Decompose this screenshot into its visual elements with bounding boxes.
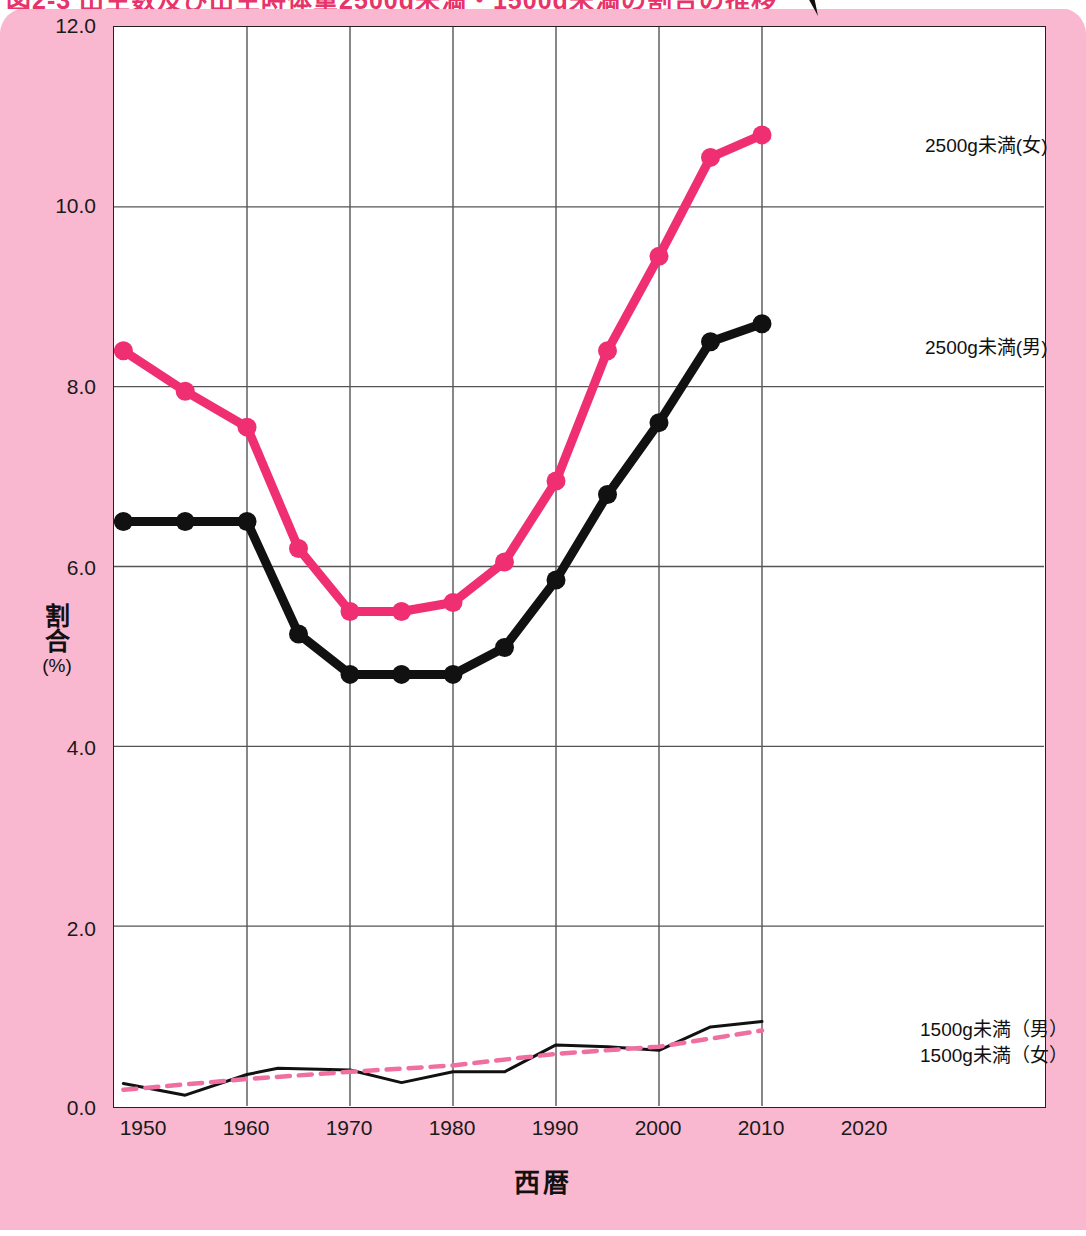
series-2 [123, 1022, 762, 1096]
y-tick-6: 6.0 [34, 556, 96, 580]
y-axis-title-text: 割合 [45, 602, 70, 655]
x-tick-2020: 2020 [824, 1116, 904, 1140]
x-tick-1950: 1950 [103, 1116, 183, 1140]
x-axis-title: 西暦 [0, 1162, 1086, 1199]
y-tick-2: 2.0 [34, 917, 96, 941]
y-axis-title: 割合 (%) [34, 604, 80, 675]
x-tick-2010: 2010 [721, 1116, 801, 1140]
plot-area [113, 26, 1046, 1108]
chart-page: 図2-3 出生数及び出生時体重2500g未満・1500g未満の割合の推移 割合 … [0, 0, 1086, 1236]
y-tick-8: 8.0 [34, 375, 96, 399]
series-0 [114, 125, 771, 621]
series-3 [123, 1031, 762, 1090]
bubble-tail [766, 0, 818, 16]
speech-bubble [722, 0, 1086, 100]
legend-female-2500: 2500g未満(女) [925, 130, 1048, 157]
y-tick-4: 4.0 [34, 736, 96, 760]
y-axis-unit: (%) [34, 656, 80, 675]
series-1 [114, 314, 771, 684]
y-tick-0: 0.0 [34, 1096, 96, 1120]
x-tick-1980: 1980 [412, 1116, 492, 1140]
y-tick-12: 12.0 [34, 14, 96, 38]
chart-svg [114, 27, 1044, 1106]
legend-male-2500: 2500g未満(男) [925, 332, 1048, 359]
x-tick-1970: 1970 [309, 1116, 389, 1140]
x-tick-2000: 2000 [618, 1116, 698, 1140]
legend-female-1500: 1500g未満（女） [920, 1040, 1068, 1067]
gridlines [114, 27, 1044, 1106]
legend-male-1500: 1500g未満（男） [920, 1014, 1068, 1041]
x-tick-1960: 1960 [206, 1116, 286, 1140]
y-tick-10: 10.0 [34, 194, 96, 218]
figure-title: 図2-3 出生数及び出生時体重2500g未満・1500g未満の割合の推移 [6, 0, 777, 9]
x-tick-1990: 1990 [515, 1116, 595, 1140]
